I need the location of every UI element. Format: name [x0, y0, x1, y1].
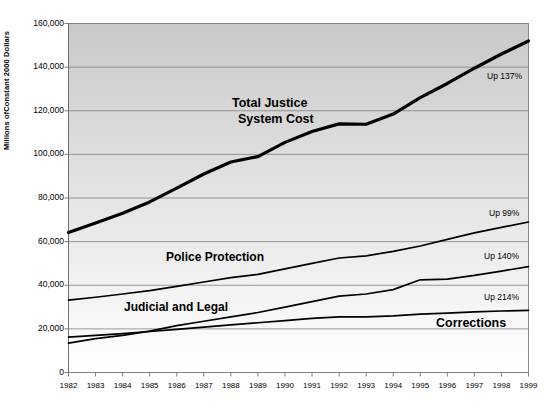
justice-system-cost-chart: Millions ofConstant 2000 Dollars 020,000…	[0, 0, 555, 414]
annotation-up-137: Up 137%	[487, 71, 522, 81]
series-label-total-justice-line1: Total Justice	[232, 96, 307, 110]
plot-area	[0, 0, 555, 414]
series-label-police-protection: Police Protection	[166, 250, 264, 264]
annotation-up-140: Up 140%	[484, 251, 519, 261]
series-label-corrections: Corrections	[436, 316, 506, 330]
annotation-up-214: Up 214%	[484, 292, 519, 302]
annotation-up-99: Up 99%	[489, 208, 519, 218]
x-axis-tick-label: 1999	[509, 381, 549, 390]
series-label-judicial-and-legal: Judicial and Legal	[124, 300, 228, 314]
series-label-total-justice-line2: System Cost	[238, 112, 314, 126]
